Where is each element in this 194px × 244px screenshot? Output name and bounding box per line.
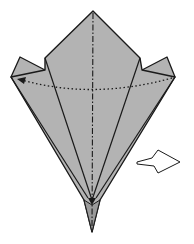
next-step-arrow-icon [137,150,180,173]
tail [84,198,100,232]
origami-diagram [0,0,194,244]
